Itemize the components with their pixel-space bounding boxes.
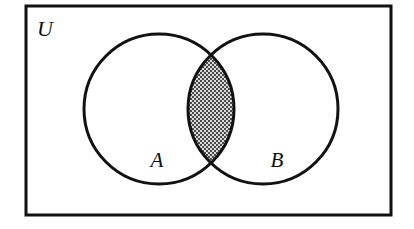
venn-diagram-figure: U A B	[0, 0, 414, 229]
universe-label: U	[37, 16, 55, 41]
set-b-label: B	[271, 148, 284, 172]
set-a-label: A	[149, 148, 164, 172]
venn-diagram-canvas: U A B	[0, 0, 414, 229]
